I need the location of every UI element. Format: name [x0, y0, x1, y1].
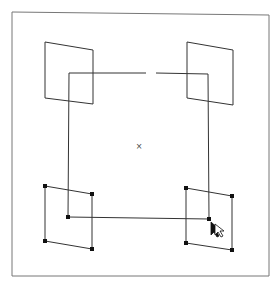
- selection-handle[interactable]: [90, 247, 94, 251]
- selection-handle[interactable]: [184, 241, 188, 245]
- center-marker-icon: ×: [136, 142, 143, 151]
- selection-handle[interactable]: [90, 192, 94, 196]
- selection-handle[interactable]: [184, 186, 188, 190]
- center-square-edge[interactable]: [68, 73, 69, 217]
- drawing-canvas[interactable]: ×: [0, 0, 278, 286]
- selection-handle[interactable]: [207, 217, 211, 221]
- center-square-edge[interactable]: [208, 74, 209, 219]
- selection-handle[interactable]: [66, 215, 70, 219]
- selection-handle[interactable]: [43, 239, 47, 243]
- center-square-edge[interactable]: [156, 73, 208, 74]
- selection-handle[interactable]: [230, 248, 234, 252]
- arrow-cursor-icon: [211, 222, 224, 237]
- drawing-surface[interactable]: ×: [0, 0, 278, 286]
- selection-handle[interactable]: [230, 194, 234, 198]
- selection-handle[interactable]: [43, 184, 47, 188]
- center-square-edge[interactable]: [68, 217, 209, 219]
